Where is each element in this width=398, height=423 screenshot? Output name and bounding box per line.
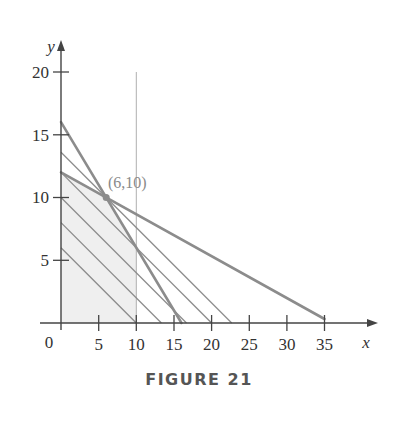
- svg-text:30: 30: [278, 335, 295, 354]
- y-tick-labels: 5 10 15 20: [32, 63, 49, 270]
- x-axis-label: x: [361, 333, 370, 352]
- point-label: (6,10): [108, 174, 147, 192]
- feasible-region-chart: (6,10) 5 10 15 20 25 30 35 0 5 10 15: [0, 0, 398, 423]
- svg-text:15: 15: [166, 335, 183, 354]
- svg-text:15: 15: [32, 126, 49, 145]
- y-axis-label: y: [45, 37, 55, 56]
- feasible-region: [61, 172, 136, 323]
- figure-caption: FIGURE 21: [145, 370, 253, 389]
- intersection-point: [103, 194, 110, 201]
- origin-label: 0: [45, 333, 54, 352]
- svg-text:5: 5: [41, 251, 50, 270]
- x-tick-labels: 5 10 15 20 25 30 35: [94, 335, 333, 354]
- svg-text:35: 35: [316, 335, 333, 354]
- svg-text:10: 10: [32, 188, 49, 207]
- svg-text:25: 25: [241, 335, 258, 354]
- x-axis-arrow-icon: [367, 319, 378, 327]
- y-axis-arrow-icon: [57, 40, 65, 51]
- svg-text:20: 20: [32, 63, 49, 82]
- svg-text:5: 5: [94, 335, 103, 354]
- svg-text:10: 10: [128, 335, 145, 354]
- svg-text:20: 20: [203, 335, 220, 354]
